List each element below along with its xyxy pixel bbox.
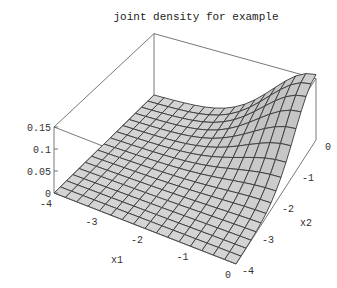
x1-tick-label: -1 [176, 252, 188, 263]
x2-axis-label: x2 [300, 218, 312, 229]
z-tick-label: 0.05 [27, 167, 51, 178]
z-tick-label: 0.1 [33, 145, 51, 156]
x1-tick-label: 0 [225, 270, 231, 281]
x2-tick-label: 0 [325, 142, 331, 153]
x2-tick-label: -2 [282, 204, 294, 215]
x1-tick-label: -3 [85, 217, 97, 228]
x1-tick-label: -2 [131, 235, 143, 246]
x1-tick-label: -4 [40, 199, 52, 210]
chart-title: joint density for example [113, 11, 278, 23]
z-tick-label: 0.15 [27, 123, 51, 134]
x2-tick-label: -4 [242, 266, 254, 277]
surface-mesh [54, 74, 316, 264]
x2-tick-label: -3 [262, 235, 274, 246]
surface-plot: joint density for example 00.050.10.15-4… [0, 0, 337, 288]
x2-tick-label: -1 [302, 173, 314, 184]
x1-axis-label: x1 [111, 255, 123, 266]
